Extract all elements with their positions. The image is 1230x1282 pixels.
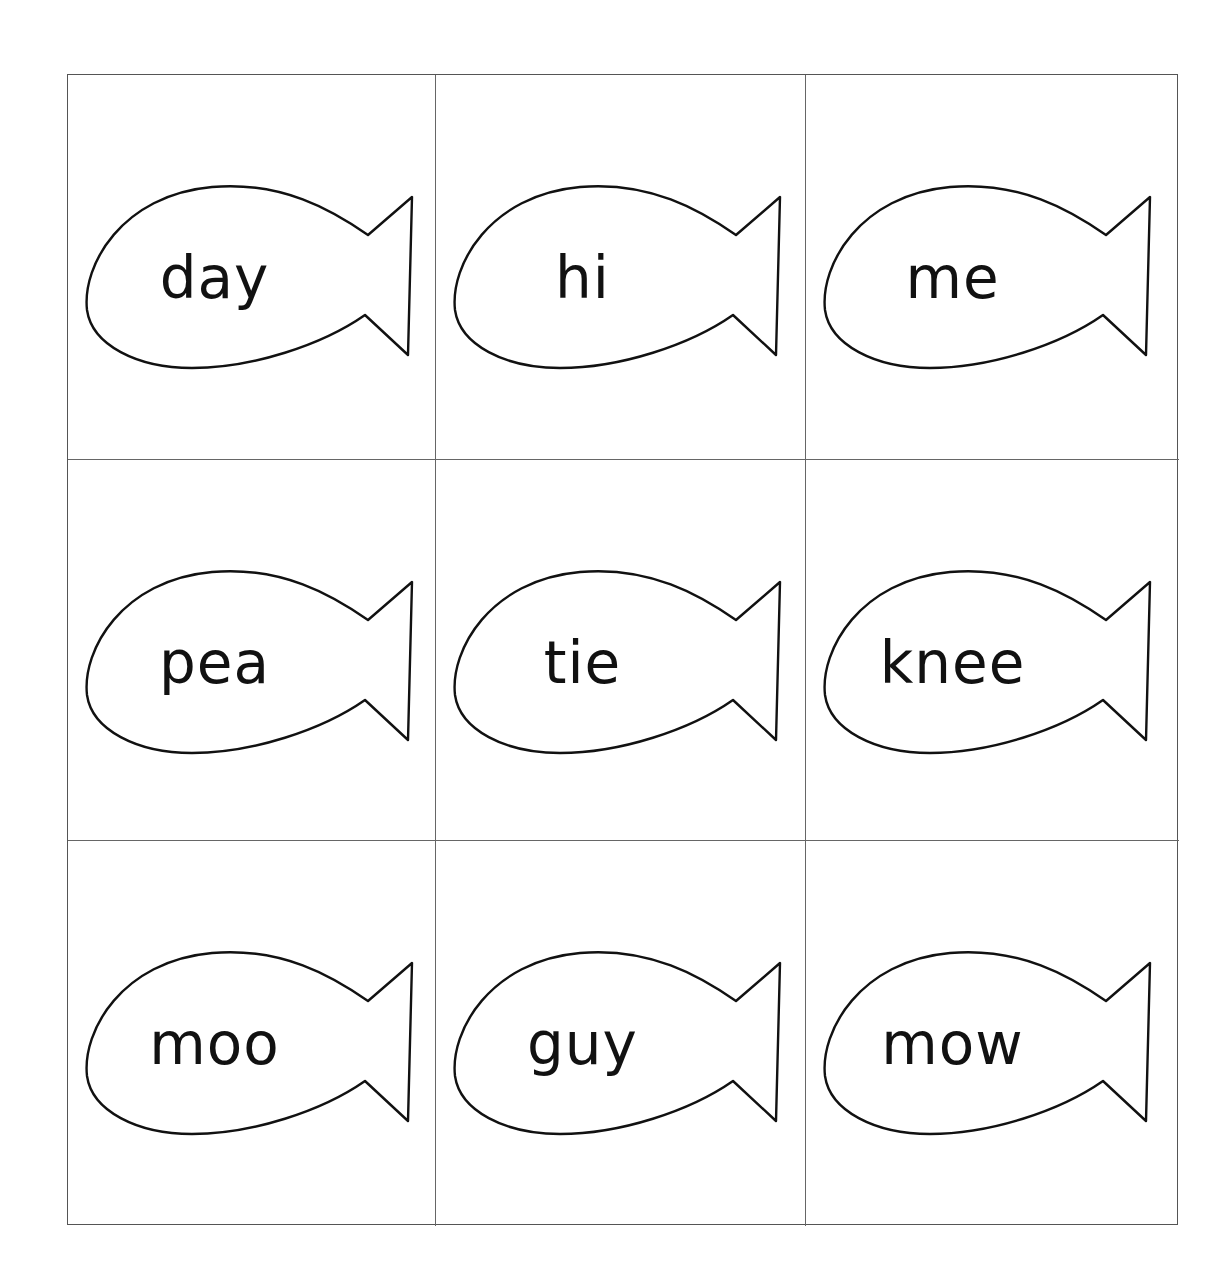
card-word: knee [820,570,1085,755]
word-card-me: me [806,75,1179,460]
card-word: moo [82,951,347,1136]
card-word: pea [82,570,347,755]
word-card-pea: pea [68,460,436,841]
card-word: hi [450,185,715,370]
card-word: tie [450,570,715,755]
word-card-moo: moo [68,841,436,1226]
card-word: day [82,185,347,370]
word-card-tie: tie [436,460,806,841]
word-card-grid: day hi me pea tie [67,74,1178,1225]
card-word: guy [450,951,715,1136]
word-card-day: day [68,75,436,460]
word-card-mow: mow [806,841,1179,1226]
word-card-hi: hi [436,75,806,460]
word-card-knee: knee [806,460,1179,841]
card-word: mow [820,951,1085,1136]
card-word: me [820,185,1085,370]
word-card-guy: guy [436,841,806,1226]
